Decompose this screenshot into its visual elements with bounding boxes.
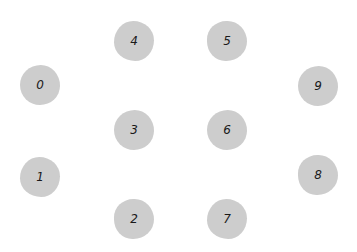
node-label: 6 xyxy=(223,124,231,136)
node-5: 5 xyxy=(207,21,247,61)
node-label: 8 xyxy=(314,169,322,181)
diagram-canvas: 0 1 2 3 4 5 6 7 8 9 xyxy=(0,0,357,252)
node-7: 7 xyxy=(207,199,247,239)
node-label: 9 xyxy=(314,80,322,92)
node-9: 9 xyxy=(298,66,338,106)
node-3: 3 xyxy=(114,110,154,150)
node-4: 4 xyxy=(114,21,154,61)
node-6: 6 xyxy=(207,110,247,150)
node-label: 2 xyxy=(130,213,138,225)
node-label: 7 xyxy=(223,213,231,225)
node-label: 0 xyxy=(36,79,44,91)
node-label: 3 xyxy=(130,124,138,136)
node-label: 5 xyxy=(223,35,231,47)
node-label: 1 xyxy=(36,171,44,183)
node-8: 8 xyxy=(298,155,338,195)
node-2: 2 xyxy=(114,199,154,239)
node-1: 1 xyxy=(20,157,60,197)
node-0: 0 xyxy=(20,65,60,105)
node-label: 4 xyxy=(130,35,138,47)
